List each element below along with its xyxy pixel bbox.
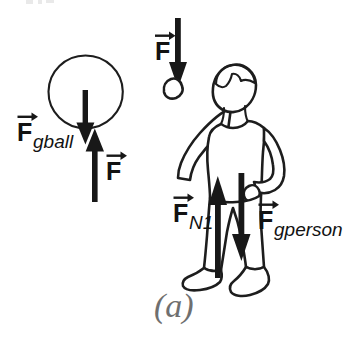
label-F-ball-applied: F: [106, 152, 127, 186]
label-F-N1-symbol: F: [173, 199, 188, 227]
label-F-N1-subscript: N1: [189, 212, 213, 233]
label-F-ball-applied-symbol: F: [106, 157, 121, 185]
figure-container: F gball F F: [0, 0, 352, 347]
label-F-gball-subscript: gball: [33, 131, 74, 152]
label-F-gperson: F gperson: [258, 201, 343, 241]
figure-canvas: F gball F F: [0, 0, 352, 347]
figure-caption: (a): [154, 287, 194, 325]
person-pants: [204, 195, 264, 271]
ball-applied-arrow: [86, 129, 104, 203]
person-figure: [164, 65, 285, 296]
label-F-hand-applied-symbol: F: [155, 37, 170, 65]
label-F-gperson-symbol: F: [258, 206, 273, 234]
cropped-text-remnant: [26, 0, 54, 4]
label-F-gball-symbol: F: [17, 118, 32, 146]
person-left-hand: [164, 78, 183, 98]
person-right-shoe: [230, 267, 269, 296]
label-F-gball: F gball: [17, 113, 74, 152]
label-F-gperson-subscript: gperson: [274, 219, 343, 240]
label-F-N1: F N1: [173, 194, 213, 234]
label-F-hand-applied: F: [155, 32, 176, 66]
